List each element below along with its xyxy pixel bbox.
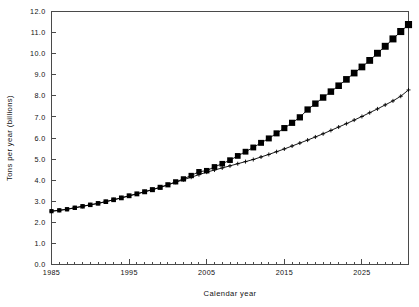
marker-square [382,43,389,50]
marker-square [335,82,342,89]
y-tick-label: 8.0 [34,91,45,100]
marker-square [235,153,241,159]
y-tick-label: 7.0 [34,113,45,122]
y-tick-label: 11.0 [31,28,46,37]
marker-square [243,149,249,155]
x-tick-label: 2025 [353,268,370,277]
marker-square [359,64,366,71]
marker-square [304,106,310,112]
series-line-low-growth-series [52,90,409,211]
series-low-growth-series [50,88,411,213]
data-series-layer [49,21,412,213]
marker-square [320,94,326,100]
marker-square [374,50,381,57]
series-line-high-growth-series [52,25,409,212]
plot-frame [52,12,409,265]
series-high-growth-series [49,21,412,213]
y-tick-label: 1.0 [34,239,45,248]
x-tick-label: 1985 [43,268,60,277]
marker-square [297,114,303,120]
x-axis-title: Calendar year [204,289,257,298]
marker-square [281,125,287,131]
y-tick-label: 2.0 [34,218,45,227]
marker-square [405,21,412,28]
plot-box [52,12,409,265]
marker-square [343,76,350,83]
x-axis-tick-labels: 19851995200520152025 [43,268,371,277]
marker-square [397,28,404,35]
marker-square [219,161,225,167]
y-tick-label: 10.0 [30,49,45,58]
y-tick-label: 4.0 [34,176,45,185]
marker-square [289,120,295,126]
x-tick-label: 2005 [198,268,215,277]
marker-square [312,100,318,106]
marker-square [266,135,272,141]
line-chart: 0.01.02.03.04.05.06.07.08.09.010.011.012… [0,0,419,307]
y-tick-label: 6.0 [34,134,45,143]
marker-square [250,145,256,151]
y-tick-label: 3.0 [34,197,45,206]
y-axis-title: Tons per year (billions) [5,95,14,181]
x-tick-label: 2015 [276,268,293,277]
y-tick-label: 5.0 [34,155,45,164]
y-tick-label: 9.0 [34,70,45,79]
y-axis-tick-marks [52,12,56,265]
marker-square [328,88,334,94]
marker-square [351,70,358,77]
chart-screenshot: 0.01.02.03.04.05.06.07.08.09.010.011.012… [0,0,419,307]
marker-square [227,157,233,163]
y-axis-tick-labels: 0.01.02.03.04.05.06.07.08.09.010.011.012… [30,7,45,269]
marker-square [274,130,280,136]
y-tick-label: 12.0 [30,7,45,16]
marker-square [389,35,396,42]
x-tick-label: 1995 [120,268,137,277]
marker-square [258,140,264,146]
marker-square [366,57,373,64]
x-axis-tick-marks [52,259,409,265]
